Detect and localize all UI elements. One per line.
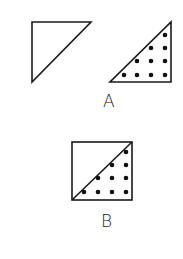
square-diagonal (72, 142, 132, 200)
figure-label-b: B (101, 211, 112, 231)
empty-triangle (32, 22, 91, 82)
diagram-canvas (0, 0, 183, 259)
square-dots (82, 150, 129, 195)
figure-label-a: A (103, 91, 115, 111)
dotted-triangle (110, 22, 171, 82)
triangle-dots (122, 33, 168, 78)
